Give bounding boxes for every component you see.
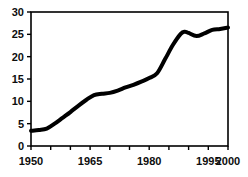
y-tick-label-10: 10 [12, 95, 24, 107]
x-tick-label-1965: 1965 [78, 155, 102, 167]
x-tick-label-1950: 1950 [19, 155, 43, 167]
x-tick-label-2000: 2000 [216, 155, 240, 167]
y-tick-label-20: 20 [12, 51, 24, 63]
line-chart: 051015202530 19501965198019952000 [0, 0, 248, 177]
y-tick-label-25: 25 [12, 28, 24, 40]
x-tick-label-1980: 1980 [137, 155, 161, 167]
y-tick-label-15: 15 [12, 73, 24, 85]
y-tick-label-30: 30 [12, 6, 24, 18]
y-tick-label-5: 5 [18, 118, 24, 130]
y-tick-label-0: 0 [18, 140, 24, 152]
chart-canvas: 051015202530 19501965198019952000 [0, 0, 248, 177]
